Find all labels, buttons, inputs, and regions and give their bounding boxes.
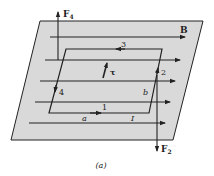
label-b: B — [180, 25, 188, 35]
label-side-2: 2 — [161, 68, 166, 77]
label-f4: F4 — [63, 9, 74, 20]
label-dim-a: a — [82, 114, 87, 123]
label-dim-b: b — [143, 88, 148, 97]
magnetic-torque-loop-diagram: F4 B 3 τ 2 4 b 1 a I F2 (a) — [0, 0, 214, 176]
label-f2: F2 — [161, 144, 172, 155]
label-side-3: 3 — [121, 40, 126, 49]
label-torque: τ — [110, 67, 115, 77]
label-side-1: 1 — [102, 103, 107, 112]
label-side-4: 4 — [59, 88, 64, 97]
figure-caption: (a) — [95, 161, 106, 170]
